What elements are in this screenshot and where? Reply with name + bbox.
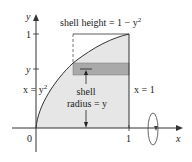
line-x-equals-1-label: x = 1 [134,84,155,95]
y-axis-arrow-icon [33,14,39,21]
x-tick-1-label: 1 [126,133,131,144]
origin-label: 0 [27,133,32,144]
shell-height-label: shell height = 1 − y2 [60,16,142,28]
shaded-region [36,34,129,128]
x-axis-label: x [175,133,181,144]
shell-radius-label-line2: radius = y [67,98,107,109]
y-tick-1-label: 1 [26,29,31,40]
x-axis-arrow-icon [176,125,183,131]
y-tick-y-label: y [25,64,31,75]
y-axis-label: y [25,11,31,22]
shell-method-figure: y x 0 1 1 y shell height = 1 − y2 x = y2… [0,0,192,162]
rotation-about-x-axis-icon [148,113,158,145]
shell-radius-label-line1: shell [77,86,96,97]
curve-label: x = y2 [23,83,48,95]
